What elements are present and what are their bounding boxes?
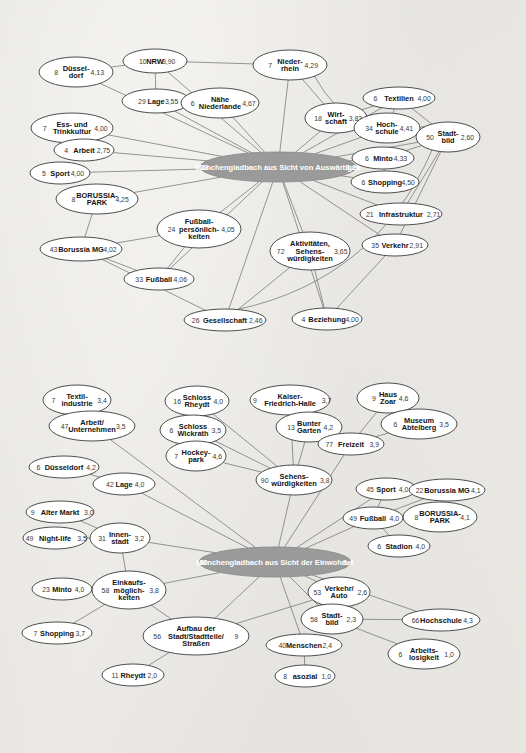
node-label: bild: [441, 136, 455, 145]
node-count: 58: [310, 616, 318, 623]
node-textilindustrie[interactable]: Textil-industrie73,4: [43, 385, 111, 415]
node-einkauf[interactable]: Einkaufs-möglich-keiten583,8: [92, 571, 166, 609]
node-aktivitaeten[interactable]: Aktivitäten,Sehens-würdigkeiten723,65: [270, 232, 350, 270]
node-naehe_nl[interactable]: NäheNiederlande64,67: [181, 88, 259, 118]
node-fussball[interactable]: Fußball334,06: [124, 268, 194, 290]
node-stadion[interactable]: Stadion64,0: [368, 535, 430, 557]
node-kaiserfriedrich[interactable]: Kaiser-Friedrich-Halle93,7: [250, 385, 331, 415]
node-count: 33: [135, 276, 143, 283]
node-label: losigkeit: [409, 653, 440, 662]
node-rheydt[interactable]: Rheydt112,0: [102, 664, 164, 686]
node-arbeitslos[interactable]: Arbeits-losigkeit61,0: [388, 639, 460, 669]
node-count: 31: [98, 535, 106, 542]
node-label: Trinkkultur: [53, 127, 91, 136]
node-asozial[interactable]: asozial81,0: [275, 665, 335, 687]
edge-aufbau-rheydt: [148, 652, 169, 665]
node-value: 3,7: [322, 397, 332, 404]
node-count: 8: [71, 196, 75, 203]
node-count: 6: [37, 464, 41, 471]
node-lage[interactable]: Lage293,55: [122, 89, 190, 113]
node-nrw[interactable]: NRW103,90: [123, 49, 187, 73]
node-schlosswickrath[interactable]: SchlossWickrath63,5: [160, 415, 226, 445]
node-niederrhein[interactable]: Nieder-rhein74,29: [253, 50, 327, 80]
node-hochschule[interactable]: Hoch-schule344,41: [354, 113, 420, 143]
node-borussiapark[interactable]: BORUSSIA-PARK84,25: [56, 184, 138, 214]
node-minto2[interactable]: Minto234,0: [32, 578, 92, 600]
node-count: 4: [64, 147, 68, 154]
node-count: 66: [412, 617, 420, 624]
node-hauszoar[interactable]: HausZoar94,6: [357, 383, 419, 413]
node-value: 4,29: [305, 62, 319, 69]
node-label: Sport: [50, 169, 70, 178]
node-count: 8: [54, 69, 58, 76]
node-value: 4,25: [115, 196, 129, 203]
node-verkehrauto[interactable]: Verkehr/Auto532,6: [308, 577, 370, 607]
edge-sport2-fussball2: [378, 500, 381, 507]
node-value: 4,00: [345, 316, 359, 323]
node-schlossrheydt[interactable]: SchlossRheydt164,0: [165, 386, 229, 416]
edge-borussiamg-fussballpers: [117, 236, 160, 243]
node-value: 4,0: [75, 586, 85, 593]
node-value: 4,00: [94, 125, 108, 132]
node-beziehung[interactable]: Beziehung44,00: [292, 308, 362, 330]
edge-fussballpers-hub: [220, 182, 259, 213]
node-nightlife[interactable]: Night-life493,5: [23, 527, 87, 549]
node-count: 40: [278, 642, 286, 649]
node-freizeit[interactable]: Freizeit773,9: [318, 433, 384, 455]
node-menschen[interactable]: Menschen402,4: [266, 634, 342, 656]
node-count: 5: [42, 170, 46, 177]
node-label: Beziehung: [308, 315, 346, 324]
node-minto[interactable]: Minto64,33: [352, 147, 414, 169]
edge-naehe_nl-hub: [233, 117, 265, 152]
node-verkehr[interactable]: Verkehr352,91: [362, 234, 428, 256]
node-count: 6: [169, 427, 173, 434]
node-label: rhein: [281, 64, 300, 73]
node-arbeit[interactable]: Arbeit42,75: [54, 139, 114, 161]
node-value: 4,0: [214, 398, 224, 405]
node-label: Borussia MG: [424, 486, 470, 495]
node-sport2[interactable]: Sport454,0: [356, 478, 416, 500]
edge-hochschule-hub: [315, 137, 361, 154]
node-fussball2[interactable]: Fußball494,0: [343, 507, 403, 529]
node-fussballpers[interactable]: Fußball-persönlich-keiten244,05: [157, 210, 241, 248]
node-count: 18: [314, 115, 322, 122]
node-count: 26: [192, 317, 200, 324]
node-shopping[interactable]: Shopping64,50: [351, 171, 419, 193]
node-duesseldorf[interactable]: Düssel-dorf84,13: [39, 57, 113, 87]
node-innenstadt[interactable]: Innen-stadt313,2: [90, 523, 150, 553]
node-esskultur[interactable]: Ess- undTrinkkultur74,00: [31, 113, 113, 143]
node-value: 3,55: [165, 98, 179, 105]
node-museum[interactable]: MuseumAbteiberg63,5: [381, 409, 457, 439]
node-shopping2[interactable]: Shopping73,7: [22, 622, 92, 644]
node-count: 8: [283, 673, 287, 680]
node-infrastruktur[interactable]: Infrastruktur212,71: [360, 203, 442, 225]
node-altermarkt[interactable]: Alter Markt93,0: [26, 501, 94, 523]
node-label: Wickrath: [177, 429, 209, 438]
node-arbeit_unt[interactable]: Arbeit/Unternehmen473,5: [49, 411, 135, 441]
node-aufbau[interactable]: Aufbau derStadt/Stadtteile/Straßen569: [143, 617, 249, 655]
node-stadtbild[interactable]: Stadt-bild502,60: [416, 122, 480, 152]
node-label: Hochschule: [420, 616, 462, 625]
node-label: Rheydt: [120, 671, 146, 680]
node-hockeypark[interactable]: Hockey-park74,6: [166, 441, 226, 471]
edge-aufbau-hub: [215, 577, 259, 619]
edge-buntergarten-sehenswuerd: [298, 442, 305, 465]
node-stadtbild2[interactable]: Stadt-bild582,3: [301, 604, 363, 634]
node-count: 90: [261, 477, 269, 484]
node-borussiamg[interactable]: Borussia MG434,02: [40, 237, 122, 261]
node-duesseldorf2[interactable]: Düsseldorf64,2: [29, 456, 99, 478]
node-value: 3,5: [439, 421, 449, 428]
node-borussiamg2[interactable]: Borussia MG224,1: [409, 479, 485, 501]
node-hochschule2[interactable]: Hochschule664,3: [402, 609, 480, 631]
node-label: Borussia MG: [58, 245, 104, 254]
edge-minto-stadtbild: [406, 146, 422, 151]
node-sehenswuerd[interactable]: Sehens-würdigkeiten903,8: [256, 465, 332, 495]
node-lage2[interactable]: Lage424,0: [93, 473, 155, 495]
node-sport[interactable]: Sport54,00: [30, 162, 90, 184]
node-textilien[interactable]: Textilien64,00: [363, 87, 435, 109]
node-count: 4: [301, 316, 305, 323]
node-gesellschaft[interactable]: Gesellschaft262,46: [184, 309, 266, 331]
edge-textilien-hochschule: [393, 109, 395, 113]
hub-node-hub[interactable]: Mönchengladbach aus Sicht der Einwohner3…: [196, 547, 354, 577]
node-borussiapark2[interactable]: BORUSSIA-PARK84,1: [403, 502, 477, 532]
